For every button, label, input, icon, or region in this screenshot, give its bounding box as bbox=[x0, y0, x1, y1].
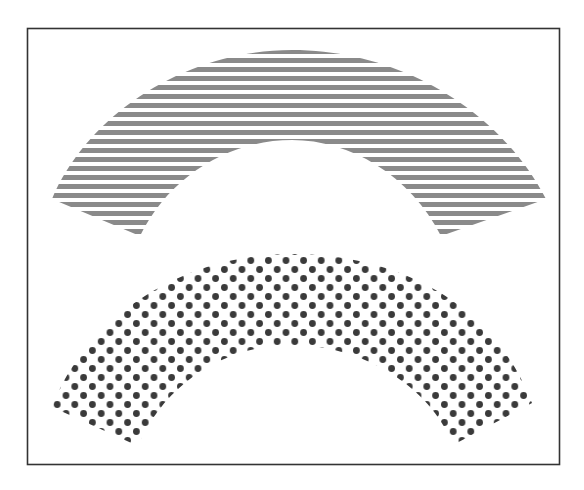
figure-canvas bbox=[0, 0, 584, 490]
